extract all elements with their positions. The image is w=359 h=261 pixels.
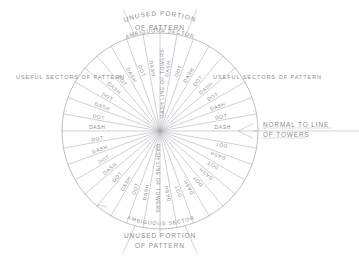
unused-portion-top-line1: UNUSED PORTION: [123, 10, 198, 24]
spoke-label-dash-0: DASH: [215, 124, 231, 130]
ambiguous-bottom-tick: [98, 205, 107, 207]
normal-to-towers-line2: OF TOWERS: [263, 131, 310, 138]
spoke-label-dash-25: DASH: [141, 184, 150, 201]
consol-radiation-pattern-diagram: DASHDOTDASHDOTDASHDOTDASHDOTDASHDASHDOTD…: [0, 0, 359, 261]
spoke-label-dash-17: DASH: [89, 124, 105, 130]
spoke-label-dot-10: DOT: [137, 64, 147, 78]
spoke-label-dot-7: DOT: [173, 64, 183, 78]
useful-sectors-left-label: USEFUL SECTORS OF PATTERN: [16, 74, 125, 80]
normal-to-towers-line1: NORMAL TO LINE: [263, 121, 329, 128]
useful-sectors-right-label: USEFUL SECTORS OF PATTERN: [213, 74, 322, 80]
spoke-label-dot-27: DOT: [173, 184, 183, 198]
normal-to-towers-callout: NORMAL TO LINE OF TOWERS: [238, 121, 359, 138]
centerline-label-top: DASH LINE OF TOWERS: [159, 49, 165, 118]
spoke-label-dash-9: DASH: [148, 60, 157, 77]
unused-portion-bottom-line1: UNUSED PORTION: [124, 232, 196, 239]
unused-portion-bottom-line2: OF PATTERN: [135, 242, 185, 249]
spoke-label-dot-24: DOT: [130, 182, 140, 196]
spoke-label-dash-26: DASH: [163, 185, 172, 202]
centerline-label-bottom: DASH LINE OF TOWERS: [155, 144, 161, 213]
ambiguous-sector-bottom: AMBIGUOUS SECTOR: [127, 214, 195, 226]
